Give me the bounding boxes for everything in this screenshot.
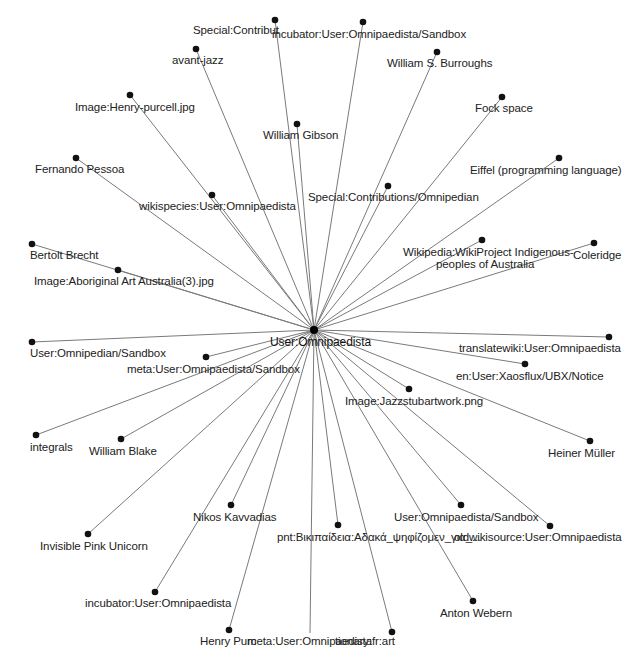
node-dot[interactable] [115,267,122,274]
node-label[interactable]: William Blake [89,445,157,458]
edge [314,330,461,505]
hub-node-label[interactable]: User:Omnipaedista [270,336,371,349]
node-label[interactable]: User:Omnipedian/Sandbox [30,347,166,360]
edge [314,97,502,330]
edge [88,330,314,534]
node-label[interactable]: pnt:Βικιπαίδεια:Αδακά_ψηφίζομεν_για_... [277,531,481,544]
node-dot[interactable] [522,361,529,368]
node-dot[interactable] [193,46,200,53]
node-dot[interactable] [470,598,477,605]
node-label[interactable]: incubator:User:Omnipaedista [85,597,231,610]
edge [310,330,314,633]
node-label[interactable]: Fernando Pessoa [35,163,124,176]
node-label[interactable]: Fock space [475,102,533,115]
node-dot[interactable] [29,339,36,346]
node-dot[interactable] [209,192,216,199]
node-label[interactable]: Coleridge [573,249,621,262]
node-dot[interactable] [294,121,301,128]
node-dot[interactable] [85,531,92,538]
node-label[interactable]: tionary:fr:art [335,635,395,648]
node-dot[interactable] [606,334,613,341]
node-label[interactable]: integrals [30,441,73,454]
node-dot[interactable] [458,502,465,509]
node-label[interactable]: William S. Burroughs [387,57,492,70]
node-label[interactable]: William Gibson [263,129,338,142]
node-dot[interactable] [591,240,598,247]
node-label[interactable]: User:Omnipaedista/Sandbox [394,511,539,524]
node-label[interactable]: wikispecies:User:Omnipaedista [139,200,296,213]
node-dot[interactable] [479,237,486,244]
node-dot[interactable] [499,94,506,101]
node-label[interactable]: avant-jazz [172,54,223,67]
node-label[interactable]: Bertolt Brecht [30,249,98,262]
node-label[interactable]: Invisible Pink Unicorn [40,540,148,553]
node-label[interactable]: translatewiki:User:Omnipaedista [459,342,621,355]
node-label[interactable]: Image:Jazzstubartwork.png [345,395,483,408]
hub-node-dot[interactable] [310,326,318,334]
node-dot[interactable] [152,589,159,596]
node-label-line2[interactable]: peoples of Australia [436,258,534,271]
node-label[interactable]: Heiner Müller [548,447,615,460]
edge [297,124,314,330]
edge [314,330,392,632]
node-label[interactable]: Special:Contribut [193,24,279,37]
node-label[interactable]: incubator:User:Omnipaedista/Sandbox [272,28,466,41]
node-dot[interactable] [406,386,413,393]
node-dot[interactable] [226,627,233,634]
node-dot[interactable] [272,17,279,24]
node-dot[interactable] [33,432,40,439]
node-label[interactable]: Image:Aboriginal Art Australia(3).jpg [34,275,214,288]
node-dot[interactable] [118,436,125,443]
node-dot[interactable] [203,354,210,361]
node-dot[interactable] [556,155,563,162]
node-label[interactable]: Eiffel (programming language) [470,164,622,177]
node-dot[interactable] [127,92,134,99]
edge [314,158,559,330]
node-label[interactable]: Nikos Kavvadias [193,511,277,524]
node-dot[interactable] [385,183,392,190]
node-label[interactable]: meta:User:Omnipaedista/Sandbox [127,363,300,376]
node-dot[interactable] [73,155,80,162]
node-label[interactable]: Image:Henry-purcell.jpg [75,101,195,114]
edge [314,330,550,526]
node-dot[interactable] [434,49,441,56]
node-dot[interactable] [29,241,36,248]
node-dot[interactable] [360,19,367,26]
node-dot[interactable] [335,522,342,529]
node-label[interactable]: Anton Webern [440,607,512,620]
edge [314,330,338,525]
edge [314,22,363,330]
node-label[interactable]: en:User:Xaosflux/UBX/Notice [456,370,604,383]
node-dot[interactable] [228,502,235,509]
node-dot[interactable] [587,438,594,445]
node-label[interactable]: Special:Contributions/Omnipedian [308,191,479,204]
node-dot[interactable] [547,523,554,530]
edge [314,330,473,601]
edge [212,195,314,330]
